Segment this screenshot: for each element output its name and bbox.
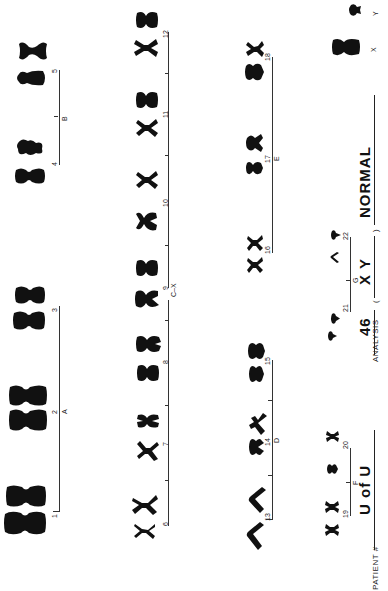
label-chr-14: 14 xyxy=(264,438,271,446)
chromosome-18a xyxy=(244,62,264,82)
tick xyxy=(346,280,350,281)
chromosome-9b xyxy=(135,258,159,278)
group-a-bracket-end xyxy=(53,511,60,512)
label-chr-12: 12 xyxy=(162,30,169,38)
label-group-c-x: C–X xyxy=(170,283,177,297)
analysis-sex: X Y xyxy=(357,258,372,285)
analysis-open-paren: ( xyxy=(372,300,380,303)
label-chr-4: 4 xyxy=(51,162,58,166)
chromosome-13b xyxy=(248,487,266,513)
label-chr-6: 6 xyxy=(162,522,169,526)
chromosome-7a xyxy=(137,440,159,462)
tick xyxy=(165,245,169,246)
tick xyxy=(346,482,350,483)
label-chr-1: 1 xyxy=(51,514,58,518)
tick xyxy=(165,480,169,481)
analysis-close-paren: ) xyxy=(372,229,380,232)
chromosome-10a xyxy=(134,210,158,232)
group-g-line xyxy=(350,237,351,312)
chromosome-4b xyxy=(16,137,44,157)
chromosome-19b xyxy=(325,500,339,514)
label-chr-19: 19 xyxy=(342,510,349,518)
tick xyxy=(165,155,169,156)
chromosome-12a xyxy=(134,38,158,58)
chromosome-20b xyxy=(326,430,339,443)
tick xyxy=(268,400,272,401)
chromosome-13a xyxy=(246,522,264,550)
chromosome-11a xyxy=(136,118,158,138)
patient-value: U of U xyxy=(357,465,372,515)
chromosome-16b xyxy=(247,234,263,252)
label-chr-13: 13 xyxy=(264,513,271,521)
chromosome-8b xyxy=(135,334,161,354)
label-chr-5: 5 xyxy=(51,69,58,73)
chromosome-5b xyxy=(17,40,47,62)
chromosome-15b xyxy=(247,341,265,361)
chromosome-21a xyxy=(327,330,337,342)
chromosome-7b xyxy=(136,413,160,429)
chromosome-14b xyxy=(249,413,267,435)
group-c-x-line-upper xyxy=(168,32,169,288)
chromosome-6a xyxy=(134,522,156,540)
analysis-count: 46 xyxy=(357,317,372,336)
tick xyxy=(54,116,58,117)
chromosome-16a xyxy=(247,256,263,274)
chromosome-17a xyxy=(245,160,263,176)
chromosome-6b xyxy=(132,494,158,516)
chromosome-8a xyxy=(136,363,160,383)
label-chr-y: Y xyxy=(372,11,379,16)
label-chr-22: 22 xyxy=(342,232,349,240)
label-group-e: E xyxy=(273,156,280,161)
label-chr-21: 21 xyxy=(342,304,349,312)
patient-underline xyxy=(374,430,375,550)
group-c-x-line-lower xyxy=(168,300,169,526)
tick xyxy=(268,475,272,476)
chromosome-21b xyxy=(330,312,340,325)
analysis-count-underline xyxy=(374,310,375,355)
chromosome-5a xyxy=(15,68,47,88)
tick xyxy=(165,320,169,321)
tick xyxy=(165,405,169,406)
analysis-result-underline xyxy=(374,95,375,225)
label-chr-20: 20 xyxy=(342,441,349,449)
label-chr-18: 18 xyxy=(264,53,271,61)
tick xyxy=(165,73,169,74)
label-chr-10: 10 xyxy=(162,199,169,207)
chromosome-11b xyxy=(135,90,159,110)
chromosome-1a xyxy=(3,510,47,536)
label-chr-7: 7 xyxy=(162,442,169,446)
chromosome-15a xyxy=(248,364,264,384)
chromosome-20a xyxy=(326,463,338,475)
chromosome-22b xyxy=(330,229,341,241)
chromosome-18b xyxy=(246,40,264,58)
label-chr-2: 2 xyxy=(51,410,58,414)
chromosome-y xyxy=(347,3,361,17)
chromosome-22a xyxy=(330,252,339,263)
group-f-line xyxy=(350,448,351,516)
patient-label: PATIENT # xyxy=(372,546,380,590)
analysis-sex-underline xyxy=(374,236,375,298)
label-chr-9: 9 xyxy=(162,286,169,290)
group-b-bracket xyxy=(59,70,60,165)
label-chr-17: 17 xyxy=(264,155,271,163)
chromosome-4a xyxy=(14,167,46,185)
analysis-result: NORMAL xyxy=(357,146,372,218)
group-a-bracket xyxy=(59,306,60,512)
chromosome-2a xyxy=(8,408,48,432)
label-group-b: B xyxy=(61,116,68,121)
chromosome-19a xyxy=(325,523,339,537)
chromosome-14a xyxy=(248,437,264,457)
label-chr-16: 16 xyxy=(264,246,271,254)
chromosome-12b xyxy=(135,10,159,30)
label-chr-3: 3 xyxy=(51,308,58,312)
chromosome-3b xyxy=(14,285,46,305)
label-chr-15: 15 xyxy=(264,357,271,365)
chromosome-17b xyxy=(245,133,263,153)
group-e-line xyxy=(272,57,273,253)
chromosome-1b xyxy=(5,484,47,508)
chromosome-2b xyxy=(8,384,48,407)
label-group-a: A xyxy=(61,409,68,414)
label-chr-11: 11 xyxy=(162,111,169,118)
chromosome-3a xyxy=(12,310,46,331)
label-chr-8: 8 xyxy=(162,360,169,364)
